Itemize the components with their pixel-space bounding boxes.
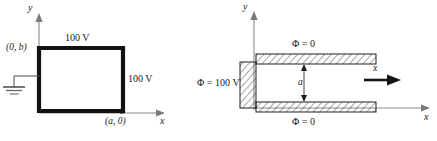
label-bottom-plate-potential: Φ = 0	[292, 117, 315, 127]
label-gap-dimension: a	[298, 78, 303, 88]
figure-parallel-plates: y x Φ = 0 Φ = 0 Φ = 100 V a x	[218, 0, 437, 141]
label-corner-a0: (a, 0)	[105, 117, 126, 127]
label-right-plate-voltage: 100 V	[128, 74, 153, 84]
label-top-plate-voltage: 100 V	[65, 33, 90, 43]
x-axis-label-right: x	[424, 112, 428, 122]
conductor-outline	[37, 46, 125, 113]
figure-right-canvas	[218, 0, 437, 141]
label-end-plate-potential: Φ = 100 V	[197, 78, 240, 88]
top-plate	[256, 54, 376, 64]
y-axis-label-right: y	[243, 2, 247, 12]
label-direction-arrow: x	[373, 63, 377, 73]
label-top-plate-potential: Φ = 0	[292, 39, 315, 49]
figure-rectangular-box: y x 100 V 100 V (0, b) (a, 0)	[0, 0, 219, 141]
y-axis-label-left: y	[28, 3, 32, 13]
label-corner-0b: (0, b)	[6, 43, 27, 53]
direction-arrow	[364, 75, 401, 86]
x-axis-label-left: x	[160, 116, 164, 126]
bottom-plate	[256, 102, 376, 112]
ground-symbol	[3, 76, 39, 94]
figure-sheet: y x 100 V 100 V (0, b) (a, 0)	[0, 0, 437, 141]
point-marker-a0	[120, 110, 124, 114]
end-plate	[240, 62, 256, 108]
